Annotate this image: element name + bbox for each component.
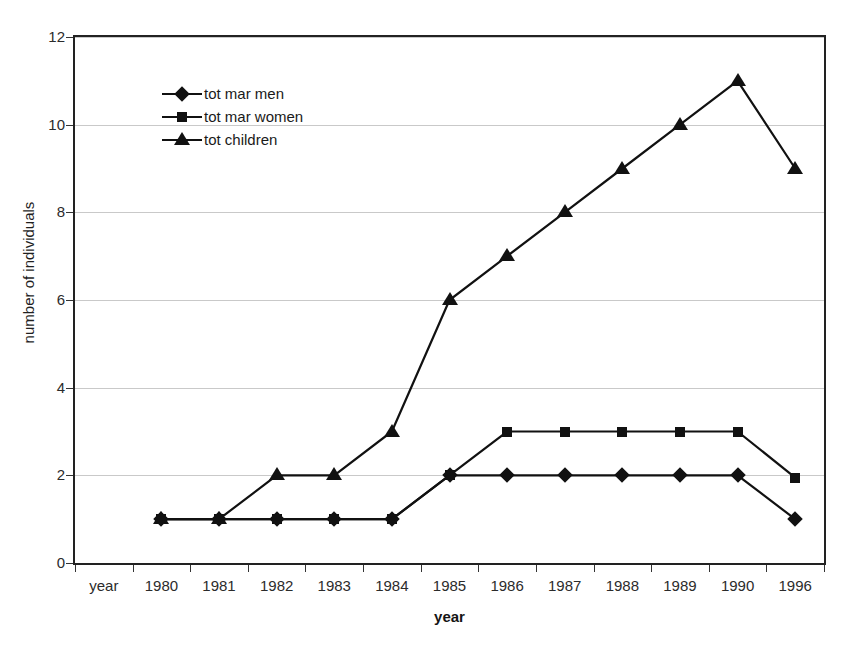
legend-item-tot-children[interactable]: tot children [160, 128, 303, 151]
x-tick-mark [594, 565, 595, 572]
y-tick-mark [66, 563, 73, 564]
y-tick-mark [66, 388, 73, 389]
y-tick-mark [66, 37, 73, 38]
x-tick-label: 1989 [651, 578, 709, 594]
x-tick-mark [190, 565, 191, 572]
data-point-triangle [499, 248, 515, 261]
diamond-marker-icon [160, 84, 204, 104]
y-tick-mark [66, 475, 73, 476]
legend-label: tot mar men [204, 86, 284, 102]
data-point-triangle [384, 423, 400, 436]
square-marker-icon [160, 107, 204, 127]
legend-label: tot children [204, 132, 277, 148]
series-line [161, 475, 795, 519]
data-point-square [675, 427, 685, 437]
x-tick-label: 1986 [478, 578, 536, 594]
data-point-triangle [730, 73, 746, 86]
data-point-square [560, 427, 570, 437]
x-tick-label: 1981 [190, 578, 248, 594]
x-tick-mark [75, 565, 76, 572]
data-point-square [272, 514, 282, 524]
data-point-triangle [787, 160, 803, 173]
y-axis-title: number of individuals [20, 73, 37, 473]
x-axis-title: year [73, 608, 826, 625]
legend-item-tot-mar-women[interactable]: tot mar women [160, 105, 303, 128]
line-chart: number of individuals 024681012 tot mar … [0, 0, 860, 654]
y-tick-label: 0 [27, 555, 65, 570]
y-tick-mark [66, 212, 73, 213]
x-tick-label: 1985 [421, 578, 479, 594]
triangle-marker-icon [160, 130, 204, 150]
y-tick-label: 10 [27, 117, 65, 132]
x-tick-mark [651, 565, 652, 572]
x-tick-label: 1990 [709, 578, 767, 594]
data-point-square [617, 427, 627, 437]
data-point-square [502, 427, 512, 437]
data-point-triangle [614, 160, 630, 173]
x-tick-label: 1987 [536, 578, 594, 594]
plot-area: tot mar men tot mar women tot children [73, 35, 826, 565]
y-tick-label: 8 [27, 204, 65, 219]
y-tick-label: 2 [27, 467, 65, 482]
x-tick-mark [363, 565, 364, 572]
x-tick-mark [421, 565, 422, 572]
data-point-triangle [442, 292, 458, 305]
x-tick-label: 1988 [594, 578, 652, 594]
data-point-square [387, 514, 397, 524]
x-tick-mark [766, 565, 767, 572]
y-tick-mark [66, 125, 73, 126]
y-tick-label: 12 [27, 29, 65, 44]
data-point-square [790, 473, 800, 483]
y-tick-label: 4 [27, 380, 65, 395]
data-point-square [445, 470, 455, 480]
x-tick-label: 1982 [248, 578, 306, 594]
y-tick-label: 6 [27, 292, 65, 307]
data-point-square [733, 427, 743, 437]
x-tick-mark [478, 565, 479, 572]
data-point-triangle [672, 117, 688, 130]
data-point-triangle [326, 467, 342, 480]
x-tick-mark [248, 565, 249, 572]
x-tick-label: 1984 [363, 578, 421, 594]
data-point-square [329, 514, 339, 524]
x-tick-mark [536, 565, 537, 572]
x-tick-label: 1980 [133, 578, 191, 594]
x-tick-mark [709, 565, 710, 572]
data-point-triangle [211, 511, 227, 524]
data-point-triangle [269, 467, 285, 480]
x-tick-label: 1983 [305, 578, 363, 594]
data-point-triangle [557, 204, 573, 217]
y-tick-mark [66, 300, 73, 301]
chart-legend: tot mar men tot mar women tot children [158, 80, 309, 155]
x-tick-mark [824, 565, 825, 572]
legend-item-tot-mar-men[interactable]: tot mar men [160, 82, 303, 105]
x-tick-label: year [75, 578, 133, 594]
x-tick-mark [133, 565, 134, 572]
legend-label: tot mar women [204, 109, 303, 125]
x-tick-label: 1996 [766, 578, 824, 594]
data-point-triangle [153, 511, 169, 524]
x-tick-mark [305, 565, 306, 572]
